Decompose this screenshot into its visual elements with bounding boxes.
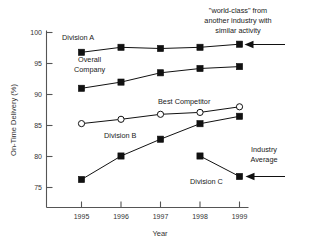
series-best-competitor [78, 104, 242, 127]
series-division-c [197, 153, 243, 180]
y-tick-label-95: 95 [34, 60, 42, 67]
data-point-overall-company-1997 [157, 70, 163, 76]
annotation-industry-average-line1: Industry [251, 145, 277, 154]
data-point-division-a-1999 [236, 41, 242, 47]
annotation-world-class: "world-class" from another industry with… [204, 6, 285, 48]
data-point-best-competitor-1999 [236, 104, 242, 110]
x-tick-label-1998: 1998 [192, 213, 208, 220]
data-point-division-c-1999 [236, 173, 242, 179]
series-label-division-a: Division A [62, 33, 94, 42]
annotation-world-class-arrow-head-icon [245, 41, 254, 48]
data-point-division-b-1995 [78, 176, 84, 182]
data-point-best-competitor-1995 [78, 121, 84, 127]
line-chart-svg: 100 95 90 85 80 75 On-Time Delivery (%) … [0, 0, 314, 251]
data-point-division-c-1998 [197, 153, 203, 159]
data-point-division-b-1997 [157, 136, 163, 142]
y-tick-label-90: 90 [34, 91, 42, 98]
y-tick-label-100: 100 [30, 29, 42, 36]
series-division-b [78, 113, 242, 182]
y-axis-title: On-Time Delivery (%) [9, 84, 18, 156]
y-tick-label-80: 80 [34, 153, 42, 160]
annotation-world-class-line3: similar activity [215, 26, 261, 35]
annotation-world-class-line1: "world-class" from [209, 6, 267, 15]
series-label-division-c: Division C [190, 177, 223, 186]
series-label-division-b: Division B [104, 131, 137, 140]
series-label-overall-company-line2: Company [74, 65, 106, 74]
x-tick-label-1999: 1999 [232, 213, 248, 220]
data-point-division-b-1998 [197, 121, 203, 127]
data-point-division-a-1996 [118, 44, 124, 50]
annotation-industry-average-line2: Average [250, 155, 277, 164]
series-division-a [78, 41, 242, 55]
data-point-division-a-1997 [157, 45, 163, 51]
data-point-best-competitor-1997 [157, 111, 163, 117]
data-point-best-competitor-1998 [197, 109, 203, 115]
x-axis-title: Year [152, 229, 168, 238]
data-point-division-a-1998 [197, 44, 203, 50]
y-tick-label-75: 75 [34, 184, 42, 191]
data-point-overall-company-1995 [78, 85, 84, 91]
y-axis: 100 95 90 85 80 75 On-Time Delivery (%) [9, 29, 53, 208]
data-point-overall-company-1996 [118, 79, 124, 85]
data-point-best-competitor-1996 [118, 116, 124, 122]
x-tick-label-1995: 1995 [74, 213, 90, 220]
data-point-division-b-1996 [118, 153, 124, 159]
series-line-division-c [200, 156, 240, 177]
annotation-industry-average: Industry Average [246, 145, 286, 180]
data-point-division-b-1999 [236, 113, 242, 119]
annotation-world-class-line2: another industry with [204, 16, 271, 25]
series-label-overall-company-line1: Overall [78, 55, 101, 64]
data-point-overall-company-1998 [197, 65, 203, 71]
x-tick-label-1996: 1996 [113, 213, 129, 220]
chart-container: 100 95 90 85 80 75 On-Time Delivery (%) … [0, 0, 314, 251]
data-point-overall-company-1999 [236, 64, 242, 70]
annotation-industry-average-arrow-head-icon [246, 173, 255, 180]
x-tick-label-1997: 1997 [153, 213, 169, 220]
series-line-division-b [82, 116, 240, 179]
y-tick-label-85: 85 [34, 122, 42, 129]
series-label-best-competitor: Best Competitor [158, 97, 211, 106]
x-axis: 1995 1996 1997 1998 1999 Year [47, 202, 249, 239]
